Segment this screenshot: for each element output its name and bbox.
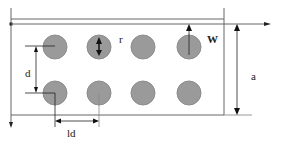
- hole: [43, 35, 67, 59]
- arrow-up-icon: [186, 24, 192, 31]
- arrow-down-icon: [34, 87, 38, 93]
- hole-array: [43, 35, 201, 105]
- label-ld: ld: [67, 127, 76, 139]
- arrow-up-icon: [34, 46, 38, 52]
- hole: [131, 81, 155, 105]
- arrow-down-icon: [234, 108, 240, 115]
- y-axis: [9, 8, 13, 128]
- hole: [131, 35, 155, 59]
- x-axis-arrow-icon: [264, 22, 271, 26]
- hole: [177, 81, 201, 105]
- arrow-right-icon: [93, 119, 99, 124]
- arrow-left-icon: [55, 119, 61, 124]
- label-a: a: [251, 70, 256, 82]
- arrow-up-icon: [234, 24, 240, 31]
- plate-diagram: d r W a ld: [0, 0, 287, 144]
- x-axis: [11, 22, 271, 26]
- y-axis-arrow-icon: [9, 122, 13, 128]
- label-r: r: [119, 33, 123, 45]
- label-d: d: [25, 67, 31, 79]
- label-W: W: [207, 33, 218, 45]
- dimension-a: a: [234, 24, 256, 115]
